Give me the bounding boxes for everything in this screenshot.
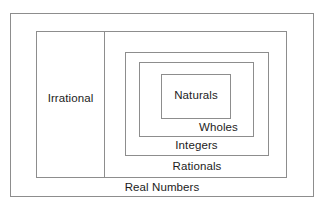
set-label-rationals: Rationals — [125, 160, 269, 173]
set-label-wholes: Wholes — [161, 121, 276, 134]
set-label-integers: Integers — [139, 139, 254, 152]
set-label-real-numbers: Real Numbers — [10, 181, 314, 194]
set-label-irrational: Irrational — [36, 92, 105, 105]
set-label-naturals: Naturals — [161, 89, 231, 102]
number-sets-diagram: Naturals Wholes Integers Rationals Irrat… — [0, 0, 325, 209]
